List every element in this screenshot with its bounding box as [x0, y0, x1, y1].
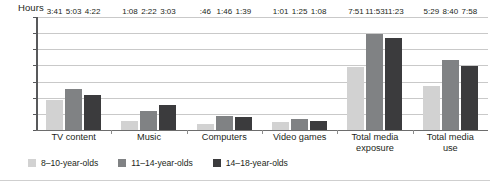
bar[interactable]: 1:25 — [291, 119, 308, 130]
bar[interactable]: 7:58 — [461, 66, 478, 130]
category-label: TV content — [36, 132, 111, 153]
bar-column: 1:08 — [121, 17, 138, 130]
bar-column: 1:01 — [272, 17, 289, 130]
bar[interactable]: 3:03 — [159, 105, 176, 130]
bar[interactable]: 5:29 — [423, 86, 440, 130]
bar-value-label: 1:25 — [292, 7, 308, 16]
bar-value-label: 1:08 — [122, 7, 138, 16]
bar-value-label: 11:53 — [365, 7, 384, 16]
y-tick-mark — [33, 130, 36, 131]
bar-group: 1:011:251:08 — [262, 17, 337, 130]
bar-value-label: 2:22 — [141, 7, 157, 16]
legend-swatch-icon — [28, 159, 36, 167]
bar-value-label: 1:39 — [236, 7, 252, 16]
bar-column: 1:08 — [310, 17, 327, 130]
legend-label: 8–10-year-olds — [41, 158, 98, 168]
bar-value-label: 7:51 — [348, 7, 364, 16]
bar-value-label: 8:40 — [443, 7, 459, 16]
chart-legend: 8–10-year-olds11–14-year-olds14–18-year-… — [28, 158, 288, 168]
bar[interactable]: 7:51 — [347, 67, 364, 130]
bar-value-label: 1:01 — [273, 7, 289, 16]
bar-column: 7:51 — [347, 17, 364, 130]
bar-column: 1:46 — [216, 17, 233, 130]
category-label: Total media use — [413, 132, 488, 153]
bar[interactable]: 1:08 — [310, 121, 327, 130]
bar[interactable]: 3:41 — [46, 100, 63, 130]
bar-column: 3:41 — [46, 17, 63, 130]
bar-column: 5:29 — [423, 17, 440, 130]
legend-swatch-icon — [213, 159, 221, 167]
bar-column: 2:22 — [140, 17, 157, 130]
legend-label: 11–14-year-olds — [131, 158, 192, 168]
bar[interactable]: :46 — [197, 124, 214, 130]
bar-value-label: :46 — [200, 7, 211, 16]
bar-column: 11:23 — [385, 17, 402, 130]
legend-item[interactable]: 8–10-year-olds — [28, 158, 98, 168]
bar-group: 5:298:407:58 — [413, 17, 488, 130]
bar-column: 8:40 — [442, 17, 459, 130]
bar[interactable]: 8:40 — [442, 60, 459, 130]
bar-value-label: 4:22 — [85, 7, 101, 16]
category-label: Music — [111, 132, 186, 153]
bar[interactable]: 2:22 — [140, 111, 157, 130]
bar-group: :461:461:39 — [187, 17, 262, 130]
bar[interactable]: 11:53 — [366, 34, 383, 130]
category-label: Video games — [262, 132, 337, 153]
bar-column: 1:25 — [291, 17, 308, 130]
bar[interactable]: 1:01 — [272, 122, 289, 130]
bar-column: 7:58 — [461, 17, 478, 130]
bar-value-label: 5:03 — [66, 7, 82, 16]
legend-item[interactable]: 14–18-year-olds — [213, 158, 288, 168]
bar-value-label: 11:23 — [384, 7, 403, 16]
bar-column: 3:03 — [159, 17, 176, 130]
bar-groups: 3:415:034:221:082:223:03:461:461:391:011… — [36, 17, 488, 130]
bar-column: 5:03 — [65, 17, 82, 130]
category-label: Computers — [187, 132, 262, 153]
bar[interactable]: 1:46 — [216, 116, 233, 130]
legend-item[interactable]: 11–14-year-olds — [118, 158, 192, 168]
bar-group: 1:082:223:03 — [111, 17, 186, 130]
bar-value-label: 3:41 — [47, 7, 63, 16]
bar-column: 1:39 — [235, 17, 252, 130]
bar[interactable]: 11:23 — [385, 38, 402, 130]
bar-column: 4:22 — [84, 17, 101, 130]
bar-group: 7:5111:5311:23 — [337, 17, 412, 130]
bar[interactable]: 1:39 — [235, 117, 252, 130]
bar-value-label: 7:58 — [462, 7, 478, 16]
category-label: Total media exposure — [337, 132, 412, 153]
bar-chart: Hours 02468101214 3:415:034:221:082:223:… — [0, 0, 490, 183]
bar-column: 11:53 — [366, 17, 383, 130]
bar-group: 3:415:034:22 — [36, 17, 111, 130]
bar-column: :46 — [197, 17, 214, 130]
bar[interactable]: 1:08 — [121, 121, 138, 130]
bar-value-label: 5:29 — [424, 7, 440, 16]
category-labels: TV contentMusicComputersVideo gamesTotal… — [36, 132, 488, 153]
y-axis-title: Hours — [18, 2, 44, 13]
bar[interactable]: 4:22 — [84, 95, 101, 130]
bar-value-label: 3:03 — [160, 7, 176, 16]
bar[interactable]: 5:03 — [65, 89, 82, 130]
bottom-divider — [0, 180, 490, 181]
bar-value-label: 1:08 — [311, 7, 327, 16]
legend-label: 14–18-year-olds — [226, 158, 288, 168]
legend-swatch-icon — [118, 159, 126, 167]
bar-value-label: 1:46 — [217, 7, 233, 16]
